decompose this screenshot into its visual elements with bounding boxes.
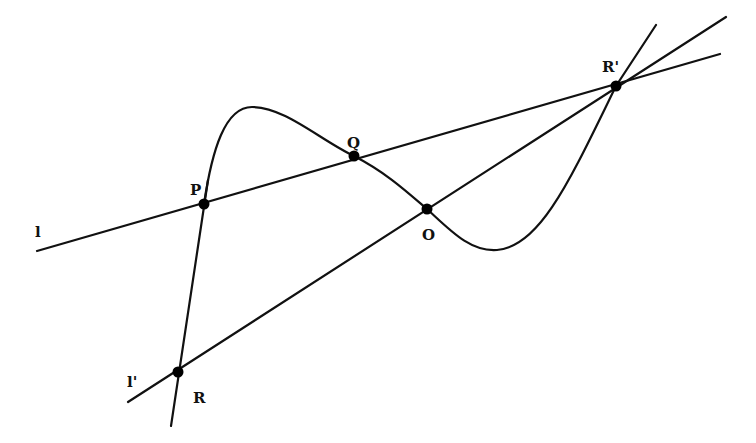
label-q: Q xyxy=(347,134,360,152)
label-r: R xyxy=(193,389,206,407)
label-o: O xyxy=(422,226,435,244)
point-o xyxy=(422,204,433,215)
point-p xyxy=(199,199,210,210)
point-q xyxy=(349,151,360,162)
label-l: l xyxy=(35,223,41,241)
cubic-curve-diagram: P Q O R R' l l' xyxy=(0,0,756,443)
label-p: P xyxy=(190,181,201,199)
label-r-prime: R' xyxy=(602,58,619,76)
label-l-prime: l' xyxy=(127,373,137,391)
point-r-prime xyxy=(611,81,622,92)
point-r xyxy=(173,367,184,378)
